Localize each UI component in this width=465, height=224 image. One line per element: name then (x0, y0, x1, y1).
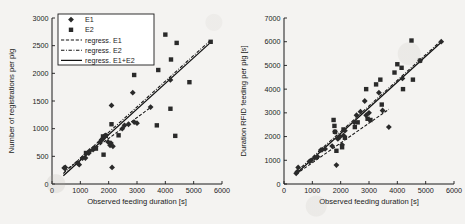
data-point-e2 (84, 151, 88, 155)
data-point-e2 (109, 122, 113, 126)
data-point-e2 (94, 146, 98, 150)
y-tick-label: 6000 (265, 37, 281, 46)
scatter-plot-left: 0100020003000400050006000050010001500200… (0, 0, 232, 224)
data-point-e2 (334, 149, 338, 153)
data-point-e2 (187, 80, 191, 84)
x-tick-label: 3000 (129, 186, 145, 195)
y-tick-label: 2500 (33, 41, 49, 50)
data-point-e1 (109, 165, 115, 171)
data-point-e1 (168, 77, 174, 83)
data-point-e2 (116, 133, 120, 137)
data-point-e1 (362, 98, 368, 104)
data-point-e2 (174, 41, 178, 45)
data-point-e2 (399, 66, 403, 70)
y-axis-title: Duration RFID feeding per pig [s] (239, 45, 248, 156)
x-tick-label: 0 (282, 186, 286, 195)
data-point-e2 (341, 127, 345, 131)
data-point-e1 (386, 124, 392, 130)
data-point-e2 (378, 77, 382, 81)
data-point-e2 (173, 134, 177, 138)
data-point-e2 (163, 32, 167, 36)
data-point-e2 (340, 145, 344, 149)
data-point-e1 (334, 162, 340, 168)
data-point-e2 (156, 68, 160, 72)
x-tick-label: 3000 (361, 186, 377, 195)
data-point-e2 (364, 87, 368, 91)
x-tick-label: 4000 (389, 186, 405, 195)
legend-item-label: regress. E1 (85, 36, 122, 45)
data-point-e2 (343, 136, 347, 140)
data-point-e2 (208, 40, 212, 44)
figure-container: 0100020003000400050006000050010001500200… (0, 0, 465, 224)
data-point-e2 (333, 130, 337, 134)
y-tick-label: 5000 (265, 61, 281, 70)
data-point-e2 (418, 58, 422, 62)
legend-item-label: regress. E2 (85, 46, 122, 55)
x-tick-label: 1000 (304, 186, 320, 195)
x-tick-label: 6000 (214, 186, 230, 195)
y-tick-label: 2000 (33, 69, 49, 78)
y-tick-label: 3000 (33, 14, 49, 23)
y-tick-label: 1500 (33, 97, 49, 106)
y-tick-label: 3000 (265, 108, 281, 117)
legend-item-label: E1 (85, 15, 94, 24)
data-point-e1 (130, 90, 136, 96)
data-point-e2 (355, 120, 359, 124)
data-point-e2 (168, 107, 172, 111)
y-tick-label: 1000 (33, 124, 49, 133)
data-point-e2 (401, 87, 405, 91)
chart-panel-right: 0100020003000400050006000010002000300040… (232, 0, 465, 224)
x-tick-label: 5000 (418, 186, 434, 195)
legend-item-label: regress. E1+E2 (85, 56, 135, 65)
chart-panel-left: 0100020003000400050006000050010001500200… (0, 0, 232, 224)
data-point-e2 (332, 124, 336, 128)
data-point-e2 (104, 134, 108, 138)
data-point-e1 (380, 108, 386, 114)
x-tick-label: 0 (50, 186, 54, 195)
data-point-e2 (395, 62, 399, 66)
data-point-e1 (400, 76, 406, 82)
data-point-e1 (109, 103, 115, 109)
y-tick-label: 0 (277, 180, 281, 189)
y-tick-label: 1000 (265, 156, 281, 165)
data-point-e2 (411, 77, 415, 81)
data-point-e2 (132, 73, 136, 77)
y-axis-title: Number of registrations per pig (7, 49, 16, 153)
x-axis-title: Observed feeding duration [s] (319, 197, 419, 206)
x-tick-label: 5000 (186, 186, 202, 195)
legend-square-icon (69, 28, 73, 32)
x-tick-label: 6000 (446, 186, 462, 195)
y-tick-label: 4000 (265, 85, 281, 94)
x-axis-title: Observed feeding duration [s] (87, 197, 187, 206)
data-point-e2 (169, 57, 173, 61)
data-point-e2 (353, 125, 357, 129)
y-tick-label: 500 (37, 152, 49, 161)
data-point-e2 (380, 102, 384, 106)
x-tick-label: 2000 (101, 186, 117, 195)
y-tick-label: 0 (45, 180, 49, 189)
y-tick-label: 2000 (265, 132, 281, 141)
data-point-e2 (155, 123, 159, 127)
data-point-e2 (374, 82, 378, 86)
data-point-e2 (409, 38, 413, 42)
x-tick-label: 4000 (157, 186, 173, 195)
data-point-e2 (101, 152, 105, 156)
y-tick-label: 7000 (265, 14, 281, 23)
legend-item-label: E2 (85, 25, 94, 34)
x-tick-label: 1000 (72, 186, 88, 195)
data-point-e2 (368, 118, 372, 122)
x-tick-label: 2000 (333, 186, 349, 195)
scatter-plot-right: 0100020003000400050006000010002000300040… (232, 0, 465, 224)
data-point-e2 (331, 118, 335, 122)
regression-line (296, 109, 389, 174)
data-point-e2 (392, 70, 396, 74)
